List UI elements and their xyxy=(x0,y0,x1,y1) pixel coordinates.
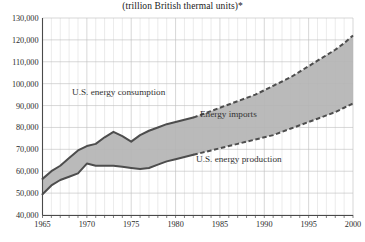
chart-canvas: 40,00050,00060,00070,00080,00090,000100,… xyxy=(0,0,365,242)
x-tick-label: 1985 xyxy=(212,220,228,229)
y-tick-label: 70,000 xyxy=(16,145,39,154)
y-tick-label: 90,000 xyxy=(16,102,39,111)
production-label: U.S. energy production xyxy=(196,154,282,164)
y-tick-label: 130,000 xyxy=(12,14,39,23)
x-tick-label: 1965 xyxy=(34,220,50,229)
chart-page: (trillion British thermal units)* 40,000… xyxy=(0,0,365,242)
y-tick-label: 40,000 xyxy=(16,211,39,220)
energy-area-chart: 40,00050,00060,00070,00080,00090,000100,… xyxy=(0,0,365,242)
y-tick-label: 100,000 xyxy=(12,80,39,89)
x-tick-label: 1995 xyxy=(300,220,316,229)
consumption-label: U.S. energy consumption xyxy=(72,87,166,97)
x-tick-labels: 19651970197519801985199019952000 xyxy=(34,220,361,229)
y-tick-labels: 40,00050,00060,00070,00080,00090,000100,… xyxy=(12,14,39,220)
y-tick-label: 110,000 xyxy=(12,58,38,67)
y-tick-label: 50,000 xyxy=(16,189,39,198)
y-tick-label: 60,000 xyxy=(16,167,39,176)
y-tick-label: 120,000 xyxy=(12,36,39,45)
energy-imports-band xyxy=(43,36,354,195)
x-tick-label: 1990 xyxy=(256,220,272,229)
x-tick-label: 1980 xyxy=(167,220,183,229)
y-tick-label: 80,000 xyxy=(16,123,39,132)
imports-label: Energy imports xyxy=(200,109,257,119)
x-tick-label: 1975 xyxy=(123,220,139,229)
x-tick-label: 1970 xyxy=(79,220,95,229)
x-tick-label: 2000 xyxy=(345,220,361,229)
